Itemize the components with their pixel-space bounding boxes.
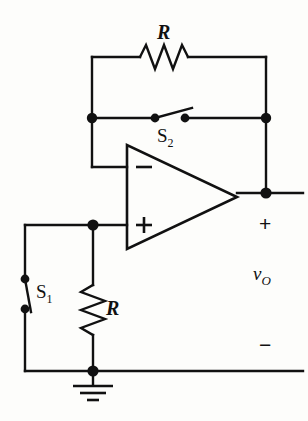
output-voltage-subscript: O xyxy=(261,273,270,288)
node-dot-inverting xyxy=(87,113,97,123)
node-dot-output-upper xyxy=(261,113,271,123)
switch-s2-subscript: 2 xyxy=(168,136,174,150)
switch-s2-letter: S xyxy=(157,125,168,146)
s1-contact-bottom-dot xyxy=(21,305,30,314)
node-dot-output xyxy=(260,187,271,198)
output-terminal-plus-label: + xyxy=(259,213,271,234)
output-terminal-minus-label: − xyxy=(259,334,271,355)
node-dot-ground xyxy=(87,365,98,376)
s1-contact-top-dot xyxy=(21,275,30,284)
circuit-schematic-svg xyxy=(0,0,308,421)
input-resistor-zigzag xyxy=(81,285,105,335)
s2-contact-left-dot xyxy=(151,114,160,123)
opamp-input-signs xyxy=(136,167,152,233)
input-resistor-branch xyxy=(81,225,105,371)
node-dot-noninverting xyxy=(87,219,98,230)
feedback-switch-label: S2 xyxy=(157,126,174,149)
switch-s1-subscript: 1 xyxy=(47,292,53,306)
feedback-resistor-branch xyxy=(92,45,266,69)
output-voltage-label: vO xyxy=(253,264,271,287)
input-resistor-label: R xyxy=(106,298,119,318)
feedback-resistor-label: R xyxy=(157,22,170,42)
feedback-resistor-zigzag xyxy=(140,45,188,69)
s2-contact-right-dot xyxy=(181,114,190,123)
junction-dots xyxy=(21,113,272,377)
opamp-triangle xyxy=(127,145,237,249)
circuit-diagram: R S2 S1 R vO + − xyxy=(0,0,308,421)
switch-s1-letter: S xyxy=(36,281,47,302)
input-switch-label: S1 xyxy=(36,282,53,305)
feedback-switch-branch xyxy=(92,108,266,118)
